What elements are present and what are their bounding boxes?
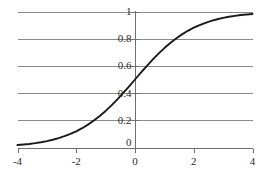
y-tick-label: 0.2 [106, 115, 132, 126]
y-tick-label: 0.8 [106, 33, 132, 44]
y-tick-label: 0.6 [106, 60, 132, 71]
x-tick-label: -2 [64, 156, 88, 167]
x-tick-label: 2 [182, 156, 206, 167]
x-tick-label: 0 [123, 156, 147, 167]
y-tick-label: 0 [106, 137, 132, 148]
chart-figure: 00.20.40.60.81 -4-2024 [0, 0, 266, 180]
x-tick-label: 4 [241, 156, 265, 167]
x-tick-label: -4 [6, 156, 30, 167]
y-tick-label: 1 [106, 6, 132, 17]
x-tick-group [19, 149, 254, 154]
plot-area [0, 0, 266, 180]
y-tick-label: 0.4 [106, 88, 132, 99]
